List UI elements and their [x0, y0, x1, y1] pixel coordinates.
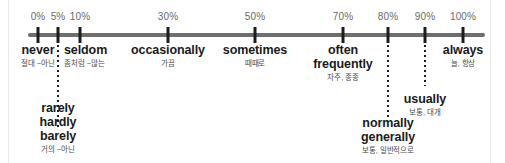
- axis-tick: [342, 27, 345, 43]
- axis-tick: [254, 27, 257, 43]
- right-border-rule: [490, 0, 491, 163]
- frequency-term-usually: usually보통, 대개: [404, 92, 446, 118]
- term-english-line: never: [21, 43, 55, 57]
- term-english-label: rarelyhardlybarely: [40, 101, 77, 143]
- term-english-line: generally: [361, 130, 415, 144]
- term-english-label: usually: [404, 92, 446, 106]
- term-english-line: seldom: [64, 43, 107, 57]
- frequency-term-often-frequently: oftenfrequently자주, 종종: [313, 43, 372, 83]
- frequency-term-always: always늘, 항상: [443, 43, 483, 69]
- left-border-rule: [8, 0, 9, 163]
- axis-tick-label: 70%: [333, 11, 353, 22]
- term-korean-label: 좀처럼 ~않는: [64, 58, 107, 69]
- frequency-scale-figure: 0%5%10%30%50%70%80%90%100% never절대 ~아닌se…: [0, 0, 505, 163]
- term-korean-label: 보통, 일반적으로: [361, 145, 415, 156]
- frequency-term-rarely-hardly-barely: rarelyhardlybarely거의 ~아닌: [40, 101, 77, 155]
- term-english-line: rarely: [40, 101, 77, 115]
- term-english-label: always: [443, 43, 483, 57]
- term-korean-label: 가끔: [131, 58, 205, 69]
- term-korean-label: 때때로: [223, 58, 287, 69]
- axis-tick-label: 10%: [70, 11, 90, 22]
- frequency-term-never: never절대 ~아닌: [21, 43, 55, 69]
- dotted-connector-line: [424, 40, 426, 86]
- axis-tick: [79, 27, 82, 43]
- axis-tick-label: 30%: [158, 11, 178, 22]
- frequency-term-occasionally: occasionally가끔: [131, 43, 205, 69]
- term-english-label: seldom: [64, 43, 107, 57]
- axis-tick-label: 80%: [378, 11, 398, 22]
- term-korean-label: 거의 ~아닌: [40, 144, 77, 155]
- term-english-label: normallygenerally: [361, 116, 415, 144]
- term-english-line: usually: [404, 92, 446, 106]
- axis-tick-label: 50%: [245, 11, 265, 22]
- axis-tick: [462, 27, 465, 43]
- axis-tick: [37, 27, 40, 43]
- term-english-line: always: [443, 43, 483, 57]
- axis-tick-label: 0%: [31, 11, 46, 22]
- frequency-term-normally-generally: normallygenerally보통, 일반적으로: [361, 116, 415, 156]
- term-english-label: oftenfrequently: [313, 43, 372, 71]
- frequency-term-seldom: seldom좀처럼 ~않는: [64, 43, 107, 69]
- term-english-line: barely: [40, 129, 77, 143]
- term-english-line: often: [313, 43, 372, 57]
- term-english-line: sometimes: [223, 43, 287, 57]
- frequency-axis-line: [28, 33, 485, 37]
- term-english-label: never: [21, 43, 55, 57]
- term-english-line: occasionally: [131, 43, 205, 57]
- frequency-term-sometimes: sometimes때때로: [223, 43, 287, 69]
- term-korean-label: 늘, 항상: [443, 58, 483, 69]
- axis-tick: [167, 27, 170, 43]
- term-english-line: hardly: [40, 115, 77, 129]
- term-english-line: frequently: [313, 57, 372, 71]
- axis-tick-label: 5%: [51, 11, 66, 22]
- axis-tick-label: 90%: [415, 11, 435, 22]
- term-english-label: occasionally: [131, 43, 205, 57]
- axis-tick-label: 100%: [450, 11, 476, 22]
- term-korean-label: 절대 ~아닌: [21, 58, 55, 69]
- dotted-connector-line: [387, 40, 389, 118]
- term-english-label: sometimes: [223, 43, 287, 57]
- term-korean-label: 자주, 종종: [313, 72, 372, 83]
- term-english-line: normally: [361, 116, 415, 130]
